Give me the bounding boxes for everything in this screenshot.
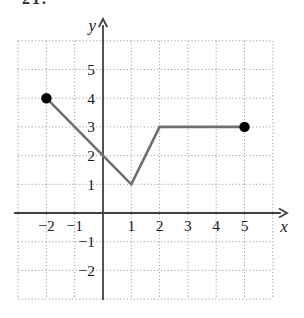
endpoint-dot: [239, 122, 249, 132]
y-tick-label: −1: [79, 233, 96, 250]
y-tick-label: 2: [87, 147, 95, 164]
y-axis-label: y: [86, 16, 96, 35]
function-curve: [46, 98, 244, 184]
y-tick-label: 1: [87, 176, 95, 193]
y-tick-label: −2: [79, 262, 96, 279]
x-tick-label: −1: [66, 217, 83, 234]
y-tick-label: 5: [87, 61, 95, 78]
y-tick-label: 4: [87, 90, 95, 107]
x-tick-label: 3: [184, 217, 192, 234]
x-tick-label: −2: [38, 217, 55, 234]
endpoint-dot: [41, 93, 51, 103]
graph-figure: 21. −2−11234554321−1−2yx: [0, 0, 304, 318]
x-tick-label: 2: [156, 217, 164, 234]
x-tick-label: 1: [127, 217, 135, 234]
y-tick-label: 3: [87, 118, 95, 135]
x-tick-label: 4: [212, 217, 220, 234]
coordinate-plane: −2−11234554321−1−2yx: [0, 0, 304, 318]
x-axis-label: x: [279, 217, 288, 236]
x-tick-label: 5: [241, 217, 249, 234]
